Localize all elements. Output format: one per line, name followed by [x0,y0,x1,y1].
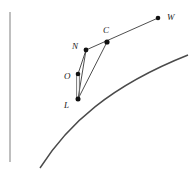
point-label-W: W [167,12,176,22]
point-label-L: L [63,100,69,110]
segment-O-L [77,74,80,99]
point-marker-L [76,97,81,102]
segment-O-N [78,50,86,74]
point-label-C: C [103,25,110,35]
point-label-N: N [71,41,79,51]
segment-N-C-W [86,18,158,50]
point-marker-N [84,48,89,53]
point-label-O: O [64,71,71,81]
point-marker-W [156,16,161,21]
geometry-figure: W C N O L [0,0,195,173]
figure-canvas: W C N O L [0,0,195,173]
point-marker-O [76,72,81,77]
point-marker-C [104,39,109,44]
concave-curve [40,55,188,168]
